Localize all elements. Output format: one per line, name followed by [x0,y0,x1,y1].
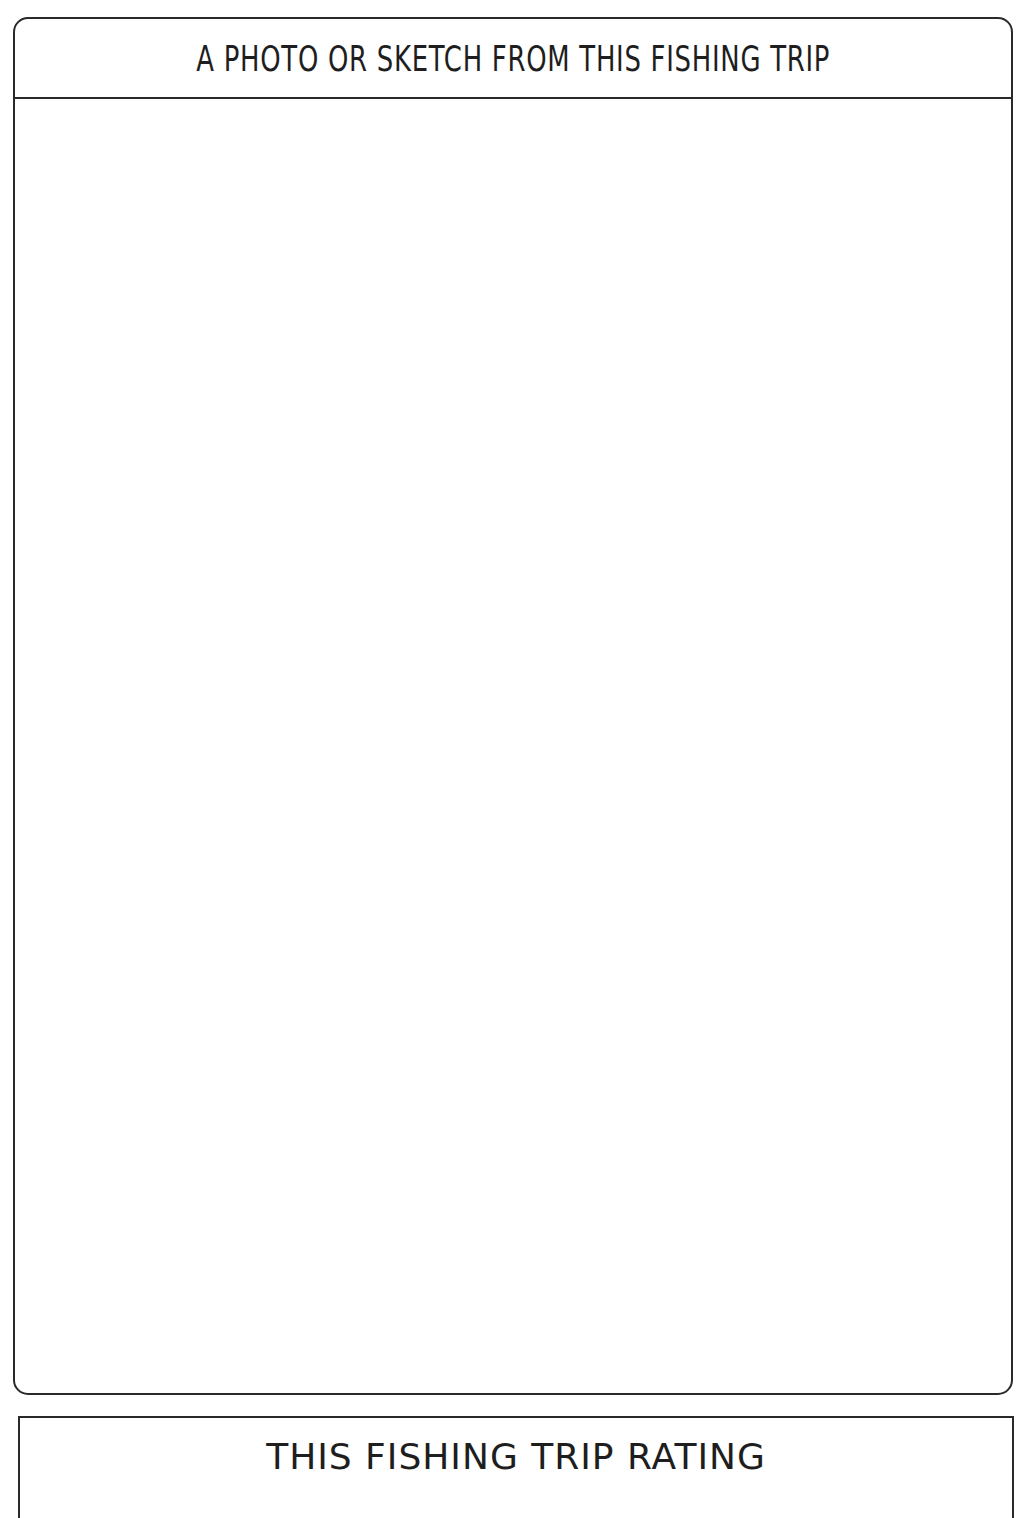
photo-sketch-area[interactable] [15,99,1011,1393]
photo-sketch-header: A PHOTO OR SKETCH FROM THIS FISHING TRIP [15,19,1011,99]
photo-sketch-title: A PHOTO OR SKETCH FROM THIS FISHING TRIP [196,38,830,79]
trip-rating-box: THIS FISHING TRIP RATING [18,1416,1014,1518]
trip-rating-title: THIS FISHING TRIP RATING [266,1436,766,1477]
photo-sketch-frame: A PHOTO OR SKETCH FROM THIS FISHING TRIP [13,17,1013,1395]
